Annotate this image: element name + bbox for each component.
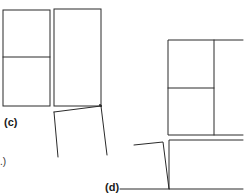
line-drawing	[0, 0, 249, 193]
figure-label-c: (c)	[4, 117, 17, 128]
panel-c-left	[3, 10, 50, 106]
panel-d-upper	[168, 40, 243, 135]
panel-d-lower	[120, 140, 243, 189]
panel-c-right	[54, 9, 101, 106]
figure-label-d: (d)	[105, 182, 119, 193]
diagram-canvas: (c) (d) .)	[0, 0, 249, 193]
cropped-text-fragment: .)	[0, 157, 6, 167]
door-c-open	[54, 105, 107, 157]
